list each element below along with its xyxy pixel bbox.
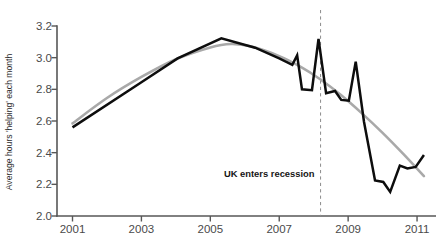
chart-figure: Average hours 'helping' each month 2.02.… <box>0 0 436 252</box>
annotation-labels: UK enters recession <box>224 168 315 179</box>
y-tick-label: 2.0 <box>36 210 52 222</box>
line-chart: Average hours 'helping' each month 2.02.… <box>0 0 436 252</box>
y-axis-tick-marks <box>52 26 58 216</box>
y-tick-label: 3.2 <box>36 20 52 32</box>
x-tick-label: 2009 <box>335 223 361 235</box>
y-tick-label: 2.4 <box>36 147 53 159</box>
y-axis-tick-labels: 2.02.22.42.62.83.03.2 <box>36 20 53 222</box>
x-tick-label: 2007 <box>266 223 292 235</box>
y-tick-label: 3.0 <box>36 52 52 64</box>
x-tick-label: 2011 <box>405 223 430 235</box>
x-tick-label: 2003 <box>129 223 155 235</box>
recession-annotation-label: UK enters recession <box>224 168 315 179</box>
y-tick-label: 2.6 <box>36 115 52 127</box>
figure-caption <box>0 246 436 252</box>
y-tick-label: 2.8 <box>36 83 52 95</box>
y-axis-label: Average hours 'helping' each month <box>4 54 14 191</box>
x-tick-label: 2001 <box>60 223 86 235</box>
x-axis-tick-marks <box>73 216 418 222</box>
y-axis-label-group: Average hours 'helping' each month <box>4 54 14 191</box>
y-tick-label: 2.2 <box>36 178 52 190</box>
x-axis-tick-labels: 200120032005200720092011 <box>60 223 430 235</box>
x-tick-label: 2005 <box>198 223 224 235</box>
